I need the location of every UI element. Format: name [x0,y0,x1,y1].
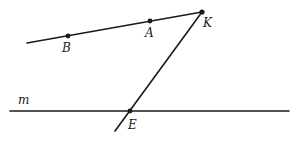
label-e: E [127,118,137,132]
point-e [128,109,133,114]
line-bk [27,12,202,43]
point-k [199,9,204,14]
point-a [148,19,153,24]
label-k: K [202,16,213,30]
point-b [66,34,71,39]
line-ke [115,12,202,131]
label-b: B [61,41,71,55]
label-a: A [144,26,154,40]
geometry-diagram: B A K E m [0,0,297,143]
label-m: m [18,93,29,107]
